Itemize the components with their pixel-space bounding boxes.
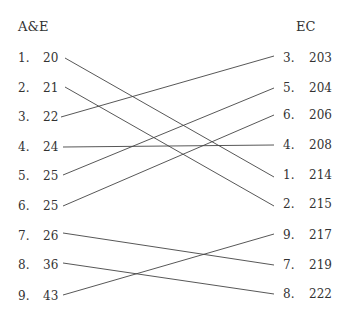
link-line-7 — [63, 233, 274, 265]
link-line-5 — [63, 88, 274, 175]
link-line-4 — [63, 145, 274, 147]
link-line-6 — [63, 115, 274, 206]
link-line-3 — [61, 56, 274, 117]
rank-link-lines — [0, 0, 350, 318]
link-line-8 — [63, 263, 274, 294]
link-line-1 — [65, 58, 274, 177]
link-line-9 — [63, 234, 274, 295]
